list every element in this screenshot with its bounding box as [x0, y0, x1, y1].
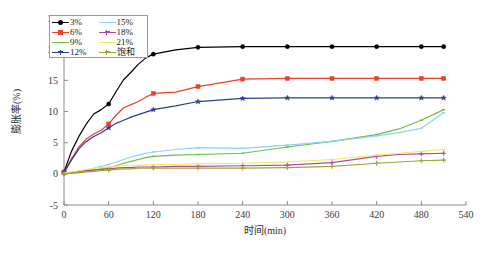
y-tick-label: -5	[50, 200, 58, 211]
y-tick-label: 5	[53, 137, 58, 148]
data-point-marker	[241, 148, 244, 149]
data-point-marker	[196, 147, 199, 148]
data-point-marker	[442, 112, 445, 113]
data-point-marker	[151, 91, 155, 95]
legend-label: 15%	[117, 17, 134, 27]
data-point-marker	[330, 45, 334, 49]
data-point-marker	[442, 76, 446, 80]
series-line	[64, 110, 444, 174]
series-line	[64, 47, 444, 172]
data-point-marker	[107, 166, 110, 167]
legend-swatch-icon	[99, 38, 116, 47]
data-point-marker	[285, 76, 289, 80]
data-point-marker	[151, 107, 156, 112]
x-tick-label: 300	[280, 209, 295, 220]
legend-entry-21pct[interactable]: 21%	[99, 37, 146, 47]
y-tick-label: 0	[53, 168, 58, 179]
data-point-marker	[442, 45, 446, 49]
data-point-marker	[330, 76, 334, 80]
data-point-marker	[285, 95, 290, 100]
data-point-marker	[196, 154, 199, 155]
data-point-marker	[419, 151, 424, 156]
data-point-marker	[286, 146, 289, 147]
data-point-marker	[375, 45, 379, 49]
data-point-marker	[442, 149, 445, 150]
data-point-marker	[329, 95, 334, 100]
x-tick-label: 180	[191, 209, 206, 220]
data-point-marker	[441, 151, 446, 156]
data-point-marker	[241, 45, 245, 49]
y-axis-title: 膨胀率(%)	[10, 89, 23, 134]
legend-entry-12pct[interactable]: 12%	[52, 47, 99, 57]
data-point-marker	[195, 99, 200, 104]
legend-swatch-icon	[52, 18, 69, 27]
legend-label: 6%	[70, 27, 82, 37]
data-point-marker	[441, 158, 446, 163]
data-point-marker	[441, 95, 446, 100]
legend-swatch-icon	[99, 48, 116, 57]
legend-grid: 3%15%6%18%9%21%12%饱和	[50, 16, 147, 57]
x-tick-label: 120	[146, 209, 161, 220]
data-point-marker	[285, 165, 290, 170]
data-point-marker	[442, 109, 445, 110]
legend-label: 12%	[70, 47, 87, 57]
x-tick-label: 540	[459, 209, 474, 220]
data-point-marker	[420, 128, 423, 129]
data-point-marker	[152, 156, 155, 157]
series-layer	[61, 45, 446, 177]
data-point-marker	[107, 102, 111, 106]
x-tick-label: 60	[104, 209, 114, 220]
legend-label: 9%	[70, 37, 82, 47]
legend-swatch-icon	[52, 28, 69, 37]
data-point-marker	[330, 141, 333, 142]
legend-swatch-icon	[52, 48, 69, 57]
data-point-marker	[240, 96, 245, 101]
y-tick-label: 15	[48, 75, 58, 86]
data-point-marker	[330, 164, 335, 169]
x-axis-title: 时间(min)	[244, 224, 286, 237]
data-point-marker	[285, 45, 289, 49]
data-point-marker	[151, 52, 155, 56]
legend-entry-6pct[interactable]: 6%	[52, 27, 99, 37]
data-point-marker	[286, 144, 289, 145]
data-point-marker	[152, 164, 155, 165]
x-tick-label: 420	[369, 209, 384, 220]
legend-label: 3%	[70, 17, 82, 27]
legend-label: 饱和	[117, 47, 135, 57]
legend-entry-9pct[interactable]: 9%	[52, 37, 99, 47]
data-point-marker	[152, 151, 155, 152]
data-point-marker	[241, 163, 244, 164]
data-point-marker	[375, 154, 378, 155]
legend-entry-3pct[interactable]: 3%	[52, 17, 99, 27]
legend-label: 21%	[117, 37, 134, 47]
legend-label: 18%	[117, 27, 134, 37]
data-point-marker	[420, 120, 423, 121]
data-point-marker	[374, 95, 379, 100]
y-tick-label: 10	[48, 106, 58, 117]
x-tick-label: 360	[325, 209, 340, 220]
legend-entry-15pct[interactable]: 15%	[99, 17, 146, 27]
legend-entry-18pct[interactable]: 18%	[99, 27, 146, 37]
series-line	[64, 98, 444, 173]
data-point-marker	[240, 166, 245, 171]
legend-swatch-icon	[99, 28, 116, 37]
legend-swatch-icon	[52, 38, 69, 47]
data-point-marker	[241, 77, 245, 81]
data-point-marker	[419, 45, 423, 49]
data-point-marker	[374, 161, 379, 166]
data-point-marker	[419, 95, 424, 100]
data-point-marker	[107, 164, 110, 165]
data-point-marker	[241, 153, 244, 154]
x-tick-label: 0	[62, 209, 67, 220]
data-point-marker	[196, 163, 199, 164]
x-tick-label: 240	[235, 209, 250, 220]
series-line	[64, 78, 444, 172]
legend-swatch-icon	[99, 18, 116, 27]
series-line	[64, 160, 444, 174]
series-9pct	[62, 109, 445, 175]
data-point-marker	[330, 159, 333, 160]
chart-legend: 3%15%6%18%9%21%12%饱和	[49, 15, 148, 58]
series-6pct	[62, 76, 446, 174]
data-point-marker	[286, 161, 289, 162]
legend-entry-饱和[interactable]: 饱和	[99, 47, 146, 57]
